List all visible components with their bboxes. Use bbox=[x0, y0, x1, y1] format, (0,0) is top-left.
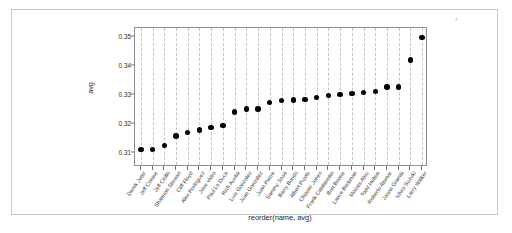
y-tick-label: 0.33 bbox=[105, 90, 131, 97]
grid-line bbox=[246, 28, 247, 165]
data-point bbox=[291, 97, 296, 102]
grid-line bbox=[364, 28, 365, 165]
x-tick-mark bbox=[363, 166, 364, 170]
data-point bbox=[255, 106, 260, 111]
data-point bbox=[361, 90, 366, 95]
x-tick-mark bbox=[198, 166, 199, 170]
data-point bbox=[150, 147, 155, 152]
x-tick-mark bbox=[163, 166, 164, 170]
plot-inner bbox=[135, 28, 426, 165]
x-tick-mark bbox=[257, 166, 258, 170]
grid-line bbox=[387, 28, 388, 165]
x-tick-mark bbox=[421, 166, 422, 170]
grid-line bbox=[282, 28, 283, 165]
x-axis-title: reorder(name, avg) bbox=[248, 213, 311, 222]
data-point bbox=[349, 91, 354, 96]
grid-line bbox=[211, 28, 212, 165]
grid-line bbox=[188, 28, 189, 165]
plot-area bbox=[134, 27, 427, 166]
grid-line bbox=[141, 28, 142, 165]
x-axis-tick-labels: Derek JeterJeff ConineJeff CirilloShanno… bbox=[134, 170, 427, 214]
grid-line bbox=[223, 28, 224, 165]
grid-line bbox=[410, 28, 411, 165]
data-point bbox=[138, 147, 143, 152]
grid-line bbox=[270, 28, 271, 165]
x-tick-mark bbox=[222, 166, 223, 170]
grid-line bbox=[258, 28, 259, 165]
data-point bbox=[232, 109, 237, 114]
grid-line bbox=[235, 28, 236, 165]
data-point bbox=[396, 84, 401, 89]
data-point bbox=[185, 130, 190, 135]
grid-line bbox=[153, 28, 154, 165]
data-point bbox=[302, 97, 307, 102]
grid-line bbox=[375, 28, 376, 165]
grid-line bbox=[352, 28, 353, 165]
data-point bbox=[197, 127, 202, 132]
data-point bbox=[208, 125, 213, 130]
data-point bbox=[373, 89, 378, 94]
data-point bbox=[419, 35, 424, 40]
data-point bbox=[244, 106, 249, 111]
x-tick-mark bbox=[234, 166, 235, 170]
x-tick-mark bbox=[210, 166, 211, 170]
data-point bbox=[337, 92, 342, 97]
y-tick-label: 0.32 bbox=[105, 119, 131, 126]
x-tick-mark bbox=[140, 166, 141, 170]
x-tick-mark bbox=[175, 166, 176, 170]
data-point bbox=[279, 98, 284, 103]
chart-frame: * avg 0.310.320.330.340.35 Derek JeterJe… bbox=[11, 9, 498, 215]
data-point bbox=[384, 84, 389, 89]
x-tick-mark bbox=[245, 166, 246, 170]
grid-line bbox=[199, 28, 200, 165]
x-tick-mark bbox=[409, 166, 410, 170]
y-axis-title: avg bbox=[86, 82, 95, 94]
x-tick-mark bbox=[269, 166, 270, 170]
x-tick-mark bbox=[304, 166, 305, 170]
data-point bbox=[408, 57, 413, 62]
y-tick-label: 0.31 bbox=[105, 148, 131, 155]
x-tick-mark bbox=[281, 166, 282, 170]
data-point bbox=[314, 95, 319, 100]
y-tick-label: 0.35 bbox=[105, 32, 131, 39]
x-tick-mark bbox=[187, 166, 188, 170]
grid-line bbox=[422, 28, 423, 165]
data-point bbox=[326, 93, 331, 98]
grid-line bbox=[176, 28, 177, 165]
grid-line bbox=[399, 28, 400, 165]
data-point bbox=[267, 100, 272, 105]
data-point bbox=[173, 133, 178, 138]
y-axis-tick-labels: 0.310.320.330.340.35 bbox=[104, 27, 131, 166]
y-tick-label: 0.34 bbox=[105, 61, 131, 68]
x-tick-mark bbox=[327, 166, 328, 170]
stray-artifact-mark: * bbox=[455, 18, 460, 23]
x-tick-mark bbox=[351, 166, 352, 170]
x-tick-mark bbox=[398, 166, 399, 170]
x-tick-mark bbox=[316, 166, 317, 170]
x-tick-mark bbox=[339, 166, 340, 170]
x-tick-mark bbox=[386, 166, 387, 170]
data-point bbox=[220, 123, 225, 128]
data-point bbox=[162, 143, 167, 148]
x-tick-mark bbox=[152, 166, 153, 170]
